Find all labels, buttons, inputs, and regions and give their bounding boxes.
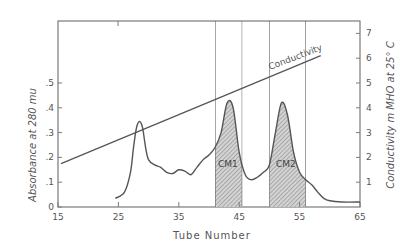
svg-text:.4: .4 (45, 103, 54, 113)
y-axis-label: Absorbance at 280 mu (27, 88, 38, 203)
data-series (61, 56, 360, 202)
svg-text:55: 55 (294, 212, 305, 222)
chromatography-chart: 1525354555650.1.2.3.4.51234567 Conductiv… (0, 0, 415, 251)
x-axis-label: Tube Number (172, 230, 251, 241)
svg-text:6: 6 (366, 53, 372, 63)
svg-text:.3: .3 (45, 128, 54, 138)
svg-text:7: 7 (366, 28, 372, 38)
cm1-label: CM1 (218, 159, 238, 169)
cm2-label: CM2 (276, 159, 296, 169)
svg-text:15: 15 (52, 212, 63, 222)
svg-text:.2: .2 (45, 152, 54, 162)
svg-text:0: 0 (48, 202, 54, 212)
axis-ticks: 1525354555650.1.2.3.4.51234567 (45, 28, 372, 222)
svg-text:4: 4 (366, 103, 372, 113)
y2-axis-label: Conductivity m MHO at 25° C (385, 41, 396, 188)
svg-text:.5: .5 (45, 78, 54, 88)
svg-text:2: 2 (366, 152, 372, 162)
svg-text:45: 45 (233, 212, 244, 222)
svg-text:1: 1 (366, 177, 372, 187)
svg-text:65: 65 (354, 212, 365, 222)
svg-text:25: 25 (113, 212, 124, 222)
svg-text:3: 3 (366, 128, 372, 138)
svg-text:35: 35 (173, 212, 184, 222)
svg-text:.1: .1 (45, 177, 54, 187)
shaded-fractions (115, 21, 360, 207)
conductivity-label: Conductivity (267, 42, 324, 72)
svg-text:5: 5 (366, 78, 372, 88)
